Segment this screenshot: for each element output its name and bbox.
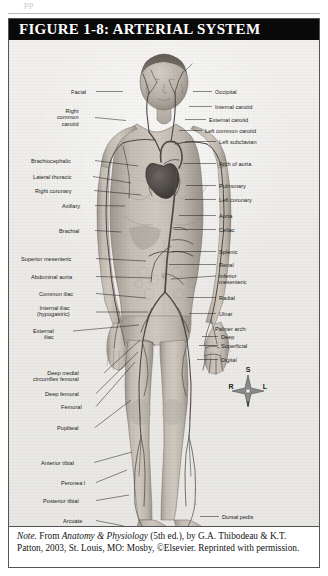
artery-label: Right common carotid <box>57 108 79 127</box>
figure-container: FIGURE 1-8: ARTERIAL SYSTEM <box>8 18 320 568</box>
page-header-area: pp <box>0 0 328 18</box>
artery-label: Ulnar <box>219 311 232 317</box>
artery-label: Left subclavian <box>219 139 257 145</box>
artery-label: Brachiocephalic <box>31 158 71 164</box>
artery-label: Axillary <box>62 203 80 209</box>
artery-label: Right coronary <box>35 188 72 194</box>
artery-label: Deep <box>221 334 234 340</box>
artery-label: Left common carotid <box>205 128 256 134</box>
artery-label: Abdominal aorta <box>31 274 72 280</box>
compass-inferior-label: I <box>243 400 253 407</box>
figure-title: FIGURE 1-8: ARTERIAL SYSTEM <box>19 21 260 38</box>
artery-label: External iliac <box>33 328 54 341</box>
page-partial-text: pp <box>24 0 34 9</box>
artery-label: Posterior tibial <box>43 498 79 504</box>
artery-label: Arcuate <box>63 518 82 524</box>
figure-title-bar: FIGURE 1-8: ARTERIAL SYSTEM <box>9 19 319 40</box>
caption-note-word: Note. <box>17 531 37 541</box>
artery-label: Popliteal <box>57 425 79 431</box>
artery-label: Dorsal pedis <box>222 514 253 520</box>
artery-label: Anterior tibial <box>41 460 74 466</box>
caption-from-text: From <box>37 531 62 541</box>
artery-label: Occipital <box>215 89 237 95</box>
caption-text: Note. From Anatomy & Physiology (5th ed.… <box>17 530 311 554</box>
artery-label: Lateral thoracic <box>33 174 72 180</box>
artery-label: Renal <box>219 262 234 268</box>
artery-label: Celiac <box>219 227 235 233</box>
artery-label: Pulmonary <box>219 183 246 189</box>
artery-label: Superior mesenteric <box>21 256 71 262</box>
compass-right-label: R <box>226 383 236 390</box>
artery-label: Facial <box>71 89 86 95</box>
artery-label: Digital <box>221 357 237 363</box>
artery-label: Internal carotid <box>215 104 252 110</box>
artery-label: Inferior mesenteric <box>219 273 247 286</box>
figure-caption: Note. From Anatomy & Physiology (5th ed.… <box>9 526 319 567</box>
artery-label: Common iliac <box>39 291 73 297</box>
artery-label: Palmer arch: <box>215 326 247 332</box>
caption-source-title: Anatomy & Physiology <box>62 531 148 541</box>
artery-label: Brachial <box>59 228 79 234</box>
artery-label: Peronea l <box>61 480 85 486</box>
compass-superior-label: S <box>243 366 253 373</box>
artery-label: Femoral <box>61 404 82 410</box>
artery-label: Aorta <box>219 213 232 219</box>
orientation-compass: S I R L <box>224 367 272 413</box>
artery-label: Deep medial circumflex femoral <box>33 370 79 383</box>
artery-label: Arch of aorta <box>219 161 251 167</box>
compass-left-label: L <box>260 383 270 390</box>
artery-label: Radial <box>219 295 235 301</box>
paper-grain <box>9 40 319 526</box>
artery-label: External carotid <box>209 117 248 123</box>
figure-illustration-area: FacialRight common carotidBrachiocephali… <box>9 40 319 526</box>
artery-label: Superficial <box>221 343 247 349</box>
artery-label: Splenic <box>219 249 238 255</box>
artery-label: Left coronary <box>219 197 252 203</box>
artery-label: Internal iliac (hypogastric) <box>37 305 70 318</box>
artery-label: Deep femoral <box>45 391 79 397</box>
page-horizontal-rule <box>8 13 320 14</box>
